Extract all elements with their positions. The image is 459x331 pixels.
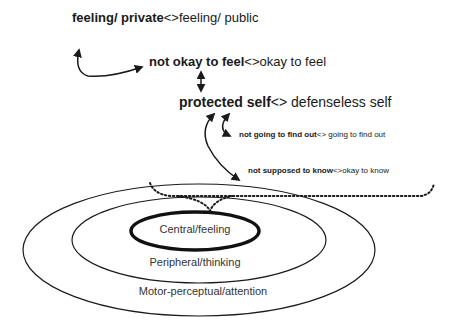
label-sep: <> bbox=[317, 130, 326, 139]
diagram-canvas: feeling/ private<>feeling/ public not ok… bbox=[0, 0, 459, 331]
label-okay-to-feel: not okay to feel<>okay to feel bbox=[149, 55, 326, 68]
label-normal: feeling/ public bbox=[179, 10, 259, 25]
label-bold: not okay to feel bbox=[149, 54, 244, 69]
ring-label-central: Central/feeling bbox=[160, 224, 231, 235]
label-sep: <> bbox=[333, 166, 342, 175]
diagram-graphics bbox=[0, 0, 459, 331]
label-bold: protected self bbox=[179, 94, 271, 110]
label-sep: <> bbox=[164, 10, 179, 25]
ring-label-motor: Motor-perceptual/attention bbox=[139, 286, 267, 297]
curved-arrow-left-icon bbox=[78, 50, 142, 76]
label-normal: defenseless self bbox=[287, 94, 391, 110]
dotted-boundary-v bbox=[178, 196, 232, 211]
label-normal: going to find out bbox=[326, 130, 385, 139]
label-bold: not going to find out bbox=[239, 130, 317, 139]
label-sep: <> bbox=[244, 54, 259, 69]
ring-label-peripheral: Peripheral/thinking bbox=[149, 257, 240, 268]
curved-arrow-short-icon bbox=[223, 114, 230, 136]
label-normal: okay to know bbox=[342, 166, 389, 175]
label-feeling-private-public: feeling/ private<>feeling/ public bbox=[72, 11, 258, 24]
curved-arrow-long-icon bbox=[205, 114, 239, 180]
label-going-to-find-out: not going to find out<> going to find ou… bbox=[239, 131, 385, 139]
label-bold: not supposed to know bbox=[248, 166, 333, 175]
middle-ring-peripheral bbox=[72, 197, 326, 283]
label-normal: okay to feel bbox=[260, 54, 327, 69]
label-okay-to-know: not supposed to know<>okay to know bbox=[248, 167, 389, 175]
label-sep: <> bbox=[271, 94, 287, 110]
label-bold: feeling/ private bbox=[72, 10, 164, 25]
label-protected-defenseless-self: protected self<> defenseless self bbox=[179, 95, 391, 109]
